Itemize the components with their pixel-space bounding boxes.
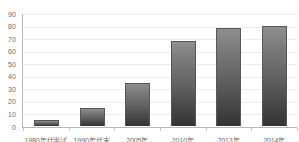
bar-slot [161, 14, 207, 126]
bar-slot [115, 14, 161, 126]
bar-chart: 0102030405060708090 1980年代半ば1990年代末2005年… [0, 0, 299, 142]
x-tick-slot: 2013年 [206, 129, 252, 142]
x-axis-tickmark [206, 128, 207, 131]
x-tick-slot: 1980年代半ば [23, 129, 69, 142]
x-axis-tick-label: 2013年 [217, 137, 239, 142]
x-axis-tick-label: 1980年代半ば [24, 137, 67, 142]
x-tick-slot: 2010年 [160, 129, 206, 142]
y-axis-tick-label: 80 [0, 23, 16, 30]
y-axis-tick-label: 90 [0, 11, 16, 18]
y-axis-tick-label: 40 [0, 73, 16, 80]
y-axis-tick-label: 20 [0, 98, 16, 105]
x-axis-tickmark [251, 128, 252, 131]
x-axis-tickmark [160, 128, 161, 131]
x-axis-tick-label: 2005年 [126, 137, 148, 142]
x-axis-tick-label: 2010年 [172, 137, 194, 142]
y-axis-tick-label: 0 [0, 124, 16, 131]
y-axis-tick-label: 50 [0, 61, 16, 68]
bar[interactable] [34, 120, 59, 126]
plot-area: 0102030405060708090 [22, 14, 297, 128]
bar[interactable] [171, 41, 196, 126]
bar[interactable] [80, 108, 105, 126]
x-tick-slot: 2014年 [251, 129, 297, 142]
bar-slot [24, 14, 70, 126]
bar[interactable] [125, 83, 150, 126]
bar-series [24, 14, 297, 126]
bar-slot [70, 14, 116, 126]
y-axis-tick-label: 60 [0, 48, 16, 55]
x-tick-slot: 2005年 [114, 129, 160, 142]
bar-slot [252, 14, 298, 126]
bar-slot [206, 14, 252, 126]
y-axis-tick-label: 70 [0, 36, 16, 43]
x-axis-tickmark [23, 128, 24, 131]
bar[interactable] [216, 28, 241, 126]
x-axis-tickmark [297, 128, 298, 131]
x-tick-slot: 1990年代末 [69, 129, 115, 142]
x-axis-tickmark [69, 128, 70, 131]
y-axis-tick-label: 10 [0, 111, 16, 118]
x-axis-tick-label: 2014年 [263, 137, 285, 142]
y-axis-tick-label: 30 [0, 86, 16, 93]
x-axis-tick-label: 1990年代末 [74, 137, 110, 142]
x-axis-tickmark [114, 128, 115, 131]
bar[interactable] [262, 26, 287, 126]
